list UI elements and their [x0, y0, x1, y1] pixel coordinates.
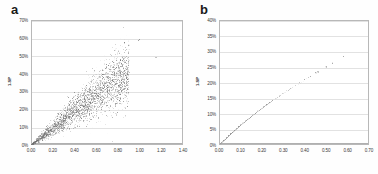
x-tick-label: 0.10: [236, 148, 244, 153]
y-tick-label: 70%: [19, 18, 28, 23]
y-tick-label: 10%: [207, 111, 216, 116]
panel-a-scatter-points: [31, 20, 183, 145]
y-tick-label: 35%: [207, 33, 216, 38]
x-tick-label: 0.00: [27, 148, 35, 153]
panel-a-y-tick-labels: 0%10%20%30%40%50%60%70%: [1, 20, 28, 145]
y-tick-label: 40%: [207, 18, 216, 23]
x-tick-label: 1.20: [157, 148, 165, 153]
y-tick-label: 40%: [19, 71, 28, 76]
y-tick-label: 30%: [19, 89, 28, 94]
x-tick-label: 0.00: [215, 148, 223, 153]
x-tick-label: 0.50: [322, 148, 330, 153]
y-tick-label: 20%: [19, 107, 28, 112]
x-tick-label: 0.60: [343, 148, 351, 153]
panel-b-y-tick-labels: 0%5%10%15%20%25%30%35%40%: [189, 20, 216, 145]
y-tick-label: 25%: [207, 64, 216, 69]
x-tick-label: 0.30: [279, 148, 287, 153]
x-tick-label: 0.20: [49, 148, 57, 153]
y-tick-label: 20%: [207, 80, 216, 85]
y-tick-label: 30%: [207, 49, 216, 54]
y-tick-label: 5%: [210, 127, 216, 132]
panel-b-scatter-points: [219, 20, 369, 145]
y-tick-label: 50%: [19, 53, 28, 58]
y-tick-label: 15%: [207, 96, 216, 101]
x-tick-label: 0.40: [70, 148, 78, 153]
panel-a: a 1-SP 0%10%20%30%40%50%60%70% 0.000.200…: [0, 0, 189, 174]
panel-b-plot: 1-SP 0%5%10%15%20%25%30%35%40% 0.000.100…: [189, 0, 378, 174]
x-tick-label: 0.20: [258, 148, 266, 153]
x-tick-label: 0.60: [92, 148, 100, 153]
panel-b: b 1-SP 0%5%10%15%20%25%30%35%40% 0.000.1…: [189, 0, 378, 174]
panel-a-plot: 1-SP 0%10%20%30%40%50%60%70% 0.000.200.4…: [0, 0, 189, 174]
x-tick-label: 1.00: [135, 148, 143, 153]
y-tick-label: 10%: [19, 125, 28, 130]
x-tick-label: 0.80: [114, 148, 122, 153]
y-tick-label: 60%: [19, 35, 28, 40]
figure-container: a 1-SP 0%10%20%30%40%50%60%70% 0.000.200…: [0, 0, 378, 174]
x-tick-label: 1.40: [179, 148, 187, 153]
x-tick-label: 0.40: [301, 148, 309, 153]
x-tick-label: 0.70: [365, 148, 373, 153]
